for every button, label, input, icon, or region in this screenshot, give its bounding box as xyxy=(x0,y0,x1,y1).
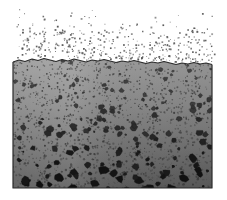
figure-root xyxy=(0,0,227,200)
granular-material-illustration xyxy=(0,0,227,200)
